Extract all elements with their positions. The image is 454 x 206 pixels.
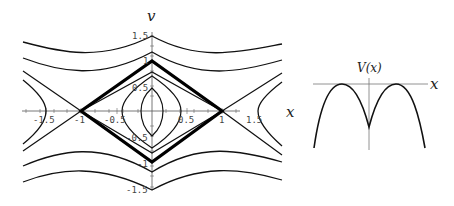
tick-x-0.5: 0.5 — [178, 115, 194, 125]
tick-x-1: 1 — [219, 115, 224, 125]
tick-v-m0.5: -0.5 — [126, 133, 148, 143]
tick-v-1: 1 — [143, 56, 148, 66]
potential-x-label: x — [430, 75, 439, 93]
tick-x-1.5: 1.5 — [246, 115, 262, 125]
tick-v-1.5: 1.5 — [132, 31, 148, 41]
orbit-inner-bottom — [81, 111, 222, 153]
orbit-top-outer — [23, 36, 282, 53]
separatrix-right-upper — [222, 73, 282, 155]
orbit-left-branch — [23, 80, 46, 144]
tick-x-m1: -1 — [74, 115, 85, 125]
figure: -1.5 -1 -0.5 0.5 1 1.5 1.5 1 0.5 -0.5 -1… — [0, 0, 454, 206]
tick-v-m1.5: -1.5 — [126, 185, 148, 195]
potential-title: V(x) — [357, 61, 382, 75]
tick-x-m1.5: -1.5 — [33, 115, 55, 125]
x-axis-label: x — [286, 103, 295, 121]
potential-plot: V(x) x — [313, 61, 439, 150]
orbit-right-branch — [258, 82, 282, 146]
tick-x-m0.5: -0.5 — [104, 115, 126, 125]
v-axis-label: v — [147, 7, 156, 25]
tick-v-m1: -1 — [137, 159, 148, 169]
tick-v-0.5: 0.5 — [132, 83, 148, 93]
orbit-inner-top — [81, 72, 222, 111]
phase-portrait: -1.5 -1 -0.5 0.5 1 1.5 1.5 1 0.5 -0.5 -1… — [22, 7, 295, 195]
potential-curve — [314, 84, 425, 148]
